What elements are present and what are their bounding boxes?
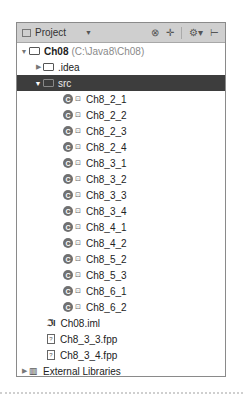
tree-class[interactable]: C⊡Ch8_3_3 [17,187,225,203]
class-icon: C [63,206,73,216]
lock-icon: ⊡ [75,287,81,295]
class-label: Ch8_3_3 [86,190,127,201]
lock-icon: ⊡ [75,303,81,311]
divider [181,27,182,39]
idea-label: .idea [58,62,80,73]
view-label: Project [35,27,66,38]
tree-class[interactable]: C⊡Ch8_2_3 [17,123,225,139]
class-icon: C [63,238,73,248]
class-icon: C [63,158,73,168]
class-icon: C [63,190,73,200]
class-label: Ch8_2_2 [86,110,127,121]
class-label: Ch8_2_3 [86,126,127,137]
gear-icon[interactable]: ⚙▾ [189,27,203,38]
class-label: Ch8_5_2 [86,254,127,265]
class-icon: C [63,126,73,136]
lock-icon: ⊡ [75,111,81,119]
class-icon: C [63,302,73,312]
class-label: Ch8_6_2 [86,302,127,313]
class-label: Ch8_3_1 [86,158,127,169]
tree-idea[interactable]: ▶ .idea [17,59,225,75]
class-icon: C [63,174,73,184]
root-name: Ch08 [44,46,68,57]
tree-external-libraries[interactable]: ▶ ▥ External Libraries [17,363,225,379]
lock-icon: ⊡ [75,95,81,103]
tree-file[interactable]: ? Ch8_3_3.fpp [17,331,225,347]
iml-file-icon: ℑI [47,318,56,328]
tree-class[interactable]: C⊡Ch8_3_2 [17,171,225,187]
project-tree: ▼ Ch08 (C:\Java8\Ch08) ▶ .idea ▼ src C⊡C… [17,43,225,379]
project-panel: Project ▼ ⊗ ✛ ⚙▾ ⊢ ▼ Ch08 (C:\Java8\Ch08… [16,22,226,377]
tree-class[interactable]: C⊡Ch8_6_1 [17,283,225,299]
lock-icon: ⊡ [75,207,81,215]
lock-icon: ⊡ [75,271,81,279]
iml-label: Ch08.iml [61,318,100,329]
class-icon: C [63,254,73,264]
tree-class[interactable]: C⊡Ch8_2_4 [17,139,225,155]
chevron-down-icon: ▼ [85,29,92,36]
class-icon: C [63,286,73,296]
unknown-file-icon: ? [47,334,55,344]
class-label: Ch8_5_3 [86,270,127,281]
tree-class[interactable]: C⊡Ch8_5_3 [17,267,225,283]
class-icon: C [63,270,73,280]
project-icon [22,29,31,37]
module-folder-icon [29,47,40,55]
class-icon: C [63,222,73,232]
expand-arrow-icon[interactable]: ▼ [19,48,29,55]
class-label: Ch8_2_1 [86,94,127,105]
class-label: Ch8_4_1 [86,222,127,233]
lock-icon: ⊡ [75,255,81,263]
expand-arrow-icon[interactable]: ▼ [33,80,43,87]
class-icon: C [63,142,73,152]
source-folder-icon [43,79,54,87]
lock-icon: ⊡ [75,159,81,167]
add-icon[interactable]: ✛ [166,27,174,38]
collapse-arrow-icon[interactable]: ▶ [33,63,43,71]
collapse-icon[interactable]: ⊗ [151,27,159,38]
tree-class[interactable]: C⊡Ch8_4_2 [17,235,225,251]
view-selector[interactable]: Project ▼ [17,27,92,38]
src-label: src [58,78,71,89]
tree-class[interactable]: C⊡Ch8_4_1 [17,219,225,235]
file-label: Ch8_3_3.fpp [60,334,117,345]
tree-src[interactable]: ▼ src [17,75,225,91]
tree-file[interactable]: ? Ch8_3_4.fpp [17,347,225,363]
lock-icon: ⊡ [75,127,81,135]
class-label: Ch8_6_1 [86,286,127,297]
tree-iml[interactable]: ℑI Ch08.iml [17,315,225,331]
tree-class[interactable]: C⊡Ch8_2_2 [17,107,225,123]
lock-icon: ⊡ [75,143,81,151]
class-icon: C [63,94,73,104]
lock-icon: ⊡ [75,239,81,247]
unknown-file-icon: ? [47,350,55,360]
class-label: Ch8_4_2 [86,238,127,249]
lock-icon: ⊡ [75,191,81,199]
tree-root[interactable]: ▼ Ch08 (C:\Java8\Ch08) [17,43,225,59]
lock-icon: ⊡ [75,175,81,183]
root-path: (C:\Java8\Ch08) [71,46,144,57]
divider [0,392,243,394]
file-label: Ch8_3_4.fpp [60,350,117,361]
tree-class[interactable]: C⊡Ch8_5_2 [17,251,225,267]
tree-class[interactable]: C⊡Ch8_3_1 [17,155,225,171]
panel-header: Project ▼ ⊗ ✛ ⚙▾ ⊢ [17,23,225,43]
class-label: Ch8_3_4 [86,206,127,217]
folder-icon [43,63,54,71]
library-icon: ▥ [29,366,38,376]
hide-icon[interactable]: ⊢ [210,27,219,38]
tree-class[interactable]: C⊡Ch8_3_4 [17,203,225,219]
class-label: Ch8_3_2 [86,174,127,185]
external-label: External Libraries [43,366,121,377]
tree-class[interactable]: C⊡Ch8_6_2 [17,299,225,315]
class-icon: C [63,110,73,120]
lock-icon: ⊡ [75,223,81,231]
tree-class[interactable]: C⊡Ch8_2_1 [17,91,225,107]
collapse-arrow-icon[interactable]: ▶ [19,367,29,375]
class-label: Ch8_2_4 [86,142,127,153]
